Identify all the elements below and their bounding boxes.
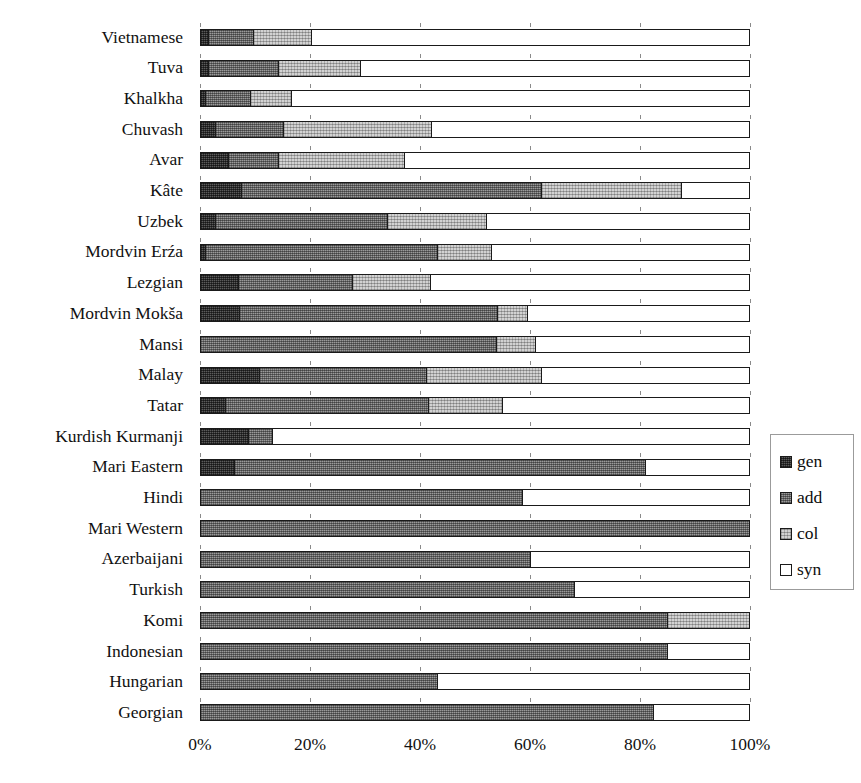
bar-row <box>200 90 750 107</box>
bar-segment-syn <box>574 582 749 597</box>
tick-mark <box>310 146 311 150</box>
bar-segment-syn <box>653 705 749 720</box>
x-axis-ticks <box>200 207 750 212</box>
tick-mark <box>750 545 751 549</box>
tick-mark <box>420 667 421 671</box>
x-axis-ticks <box>200 422 750 427</box>
x-axis-ticks <box>200 361 750 366</box>
legend-item-syn[interactable]: syn <box>780 552 853 588</box>
legend-label: add <box>797 489 822 507</box>
tick-mark <box>310 238 311 242</box>
bar-segment-syn <box>430 275 749 290</box>
bar-segment-syn <box>522 490 749 505</box>
tick-mark <box>310 514 311 518</box>
tick-mark <box>310 483 311 487</box>
tick-mark <box>310 453 311 457</box>
legend-item-gen[interactable]: gen <box>780 444 853 480</box>
tick-mark <box>530 391 531 395</box>
tick-mark <box>200 299 201 303</box>
bar-segment-syn <box>527 306 749 321</box>
bar-segment-syn <box>404 153 749 168</box>
tick-mark <box>420 84 421 88</box>
bar-segment-add <box>201 552 530 567</box>
bar-segment-add <box>225 398 428 413</box>
tick-mark <box>530 483 531 487</box>
tick-mark <box>640 84 641 88</box>
tick-mark <box>310 606 311 610</box>
bar-segment-col <box>278 153 404 168</box>
tick-mark <box>750 299 751 303</box>
bar-row <box>200 305 750 322</box>
tick-mark <box>750 207 751 211</box>
y-axis-label: Mordvin Erźa <box>0 237 192 268</box>
x-axis-ticks <box>200 146 750 151</box>
tick-mark <box>530 299 531 303</box>
tick-mark <box>310 698 311 702</box>
tick-mark <box>310 391 311 395</box>
bar-segment-add <box>201 613 667 628</box>
x-axis-tick-label: 100% <box>730 736 771 754</box>
bar-segment-add <box>201 521 749 536</box>
tick-mark <box>530 575 531 579</box>
x-axis-ticks <box>200 23 750 28</box>
tick-mark <box>200 483 201 487</box>
x-axis-ticks <box>200 637 750 642</box>
bar-segment-col <box>437 245 492 260</box>
bar-row <box>200 367 750 384</box>
bar-row <box>200 274 750 291</box>
tick-mark <box>420 391 421 395</box>
bar-segment-add <box>234 460 645 475</box>
tick-mark <box>530 268 531 272</box>
y-axis-label: Khalkha <box>0 83 192 114</box>
bar-segment-col <box>283 122 431 137</box>
tick-mark <box>310 637 311 641</box>
bar-segment-add <box>228 153 277 168</box>
legend-swatch-add-icon <box>780 492 792 504</box>
y-axis-label: Azerbaijani <box>0 544 192 575</box>
tick-mark <box>420 207 421 211</box>
tick-mark <box>640 637 641 641</box>
bar-segment-add <box>215 214 387 229</box>
tick-mark <box>530 115 531 119</box>
tick-mark <box>200 207 201 211</box>
legend-item-add[interactable]: add <box>780 480 853 516</box>
y-axis-label: Lezgian <box>0 268 192 299</box>
y-axis-label: Kâte <box>0 175 192 206</box>
x-axis-ticks <box>200 176 750 181</box>
tick-mark <box>750 514 751 518</box>
tick-mark <box>750 453 751 457</box>
tick-mark <box>530 176 531 180</box>
tick-mark <box>750 84 751 88</box>
bar-segment-add <box>238 275 353 290</box>
tick-mark <box>200 391 201 395</box>
bar-row <box>200 643 750 660</box>
tick-mark <box>310 667 311 671</box>
tick-mark <box>750 330 751 334</box>
x-axis-tick-label: 0% <box>188 736 211 754</box>
tick-mark <box>420 514 421 518</box>
tick-mark <box>200 698 201 702</box>
x-axis-ticks <box>200 330 750 335</box>
tick-mark <box>750 637 751 641</box>
bar-segment-col <box>253 30 311 45</box>
legend-item-col[interactable]: col <box>780 516 853 552</box>
bar-segment-add <box>201 337 496 352</box>
y-axis-label: Kurdish Kurmanji <box>0 421 192 452</box>
tick-mark <box>640 238 641 242</box>
bar-segment-add <box>241 183 541 198</box>
tick-mark <box>420 453 421 457</box>
y-axis-label: Mari Eastern <box>0 452 192 483</box>
tick-mark <box>310 115 311 119</box>
x-axis-ticks <box>200 698 750 703</box>
tick-mark <box>310 54 311 58</box>
y-axis-label: Tuva <box>0 53 192 84</box>
bar-segment-gen <box>201 398 225 413</box>
legend-swatch-syn-icon <box>780 564 792 576</box>
bar-segment-add <box>205 245 436 260</box>
bar-row <box>200 152 750 169</box>
tick-mark <box>640 23 641 27</box>
bar-row <box>200 551 750 568</box>
legend-swatch-gen-icon <box>780 456 792 468</box>
bar-segment-col <box>387 214 486 229</box>
bar-segment-col <box>428 398 503 413</box>
